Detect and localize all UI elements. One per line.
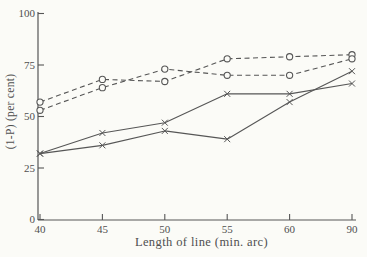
y-tick-label: 75: [24, 59, 36, 71]
circle-marker: [162, 66, 168, 72]
x-tick-label: 50: [159, 223, 171, 235]
x-marker: [349, 68, 355, 74]
circle-marker: [99, 76, 105, 82]
circle-marker: [37, 107, 43, 113]
y-tick-label: 50: [24, 110, 36, 122]
series-dashed-circle-a-line: [40, 55, 352, 102]
x-axis-title: Length of line (min. arc): [40, 235, 363, 250]
x-marker: [287, 99, 293, 105]
line-chart: 0255075100404550556090: [0, 0, 367, 257]
x-tick-label: 55: [222, 223, 234, 235]
circle-marker: [349, 56, 355, 62]
circle-marker: [37, 99, 43, 105]
x-tick-label: 90: [347, 223, 359, 235]
y-axis-title: (1-P) (per cent): [4, 42, 19, 182]
circle-marker: [99, 85, 105, 91]
x-tick-label: 45: [97, 223, 109, 235]
circle-marker: [224, 56, 230, 62]
y-tick-label: 25: [24, 162, 36, 174]
x-tick-label: 40: [35, 223, 47, 235]
circle-marker: [287, 54, 293, 60]
x-tick-label: 60: [284, 223, 296, 235]
y-tick-label: 100: [19, 7, 36, 19]
series-dashed-circle-b-line: [40, 59, 352, 111]
circle-marker: [287, 72, 293, 78]
series-solid-cross-b-line: [40, 71, 352, 153]
circle-marker: [162, 78, 168, 84]
circle-marker: [224, 72, 230, 78]
figure-container: 0255075100404550556090 Length of line (m…: [0, 0, 367, 257]
